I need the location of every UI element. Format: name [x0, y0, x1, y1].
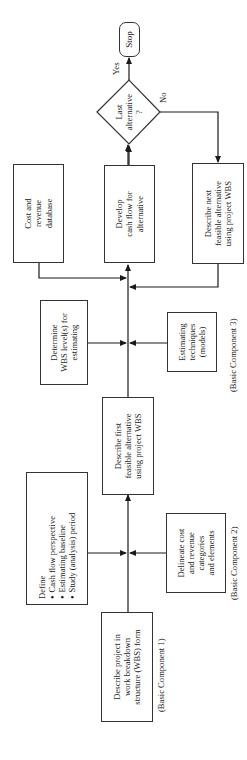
- yes-label: Yes: [111, 62, 121, 75]
- describe-project-box: Describe project in work breakdown struc…: [101, 612, 153, 722]
- describe-next-alternative-box: Describe next feasible alternative using…: [192, 163, 244, 264]
- basic-component-3-label: (Basic Component 3): [228, 318, 238, 392]
- flowchart-rotated: Describe project in work breakdown struc…: [0, 0, 247, 760]
- cost-revenue-database-box: Cost and revenue database: [13, 164, 64, 263]
- describe-first-alternative-box: Describe first feasible alternative usin…: [102, 397, 154, 495]
- basic-component-2-label: (Basic Component 2): [229, 526, 239, 600]
- estimating-techniques-box: Estimating techniques (models): [167, 312, 217, 372]
- delineate-categories-box: Delineate cost and revenue categories an…: [166, 513, 226, 593]
- stop-terminal: Stop: [119, 22, 140, 57]
- define-bullet-study-period: Study (analysis) period: [67, 513, 77, 599]
- determine-wbs-level-box: Determine WBS level(s) for estimating: [40, 300, 88, 385]
- define-box: Define Cash flow perspective Estimating …: [26, 472, 88, 605]
- last-alternative-question: Last alternative ?: [97, 80, 160, 144]
- no-label: No: [158, 92, 168, 103]
- define-bullet-baseline: Estimating baseline: [57, 513, 67, 599]
- develop-cash-flow-box: Develop cash flow for alternative: [104, 165, 155, 263]
- basic-component-1-label: (Basic Component 1): [156, 638, 166, 712]
- define-title: Define: [37, 513, 47, 599]
- define-bullet-cash-flow: Cash flow perspective: [47, 513, 57, 599]
